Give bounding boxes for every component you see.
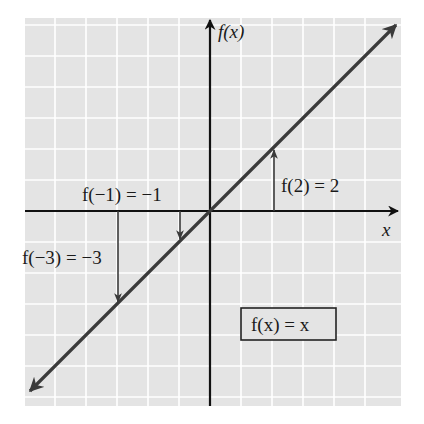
label-fm3: f(−3) = −3: [22, 247, 102, 269]
y-axis-label: f(x): [218, 21, 244, 43]
function-graph: f(x) x f(2) = 2 f(−1) = −1 f(−3) = −3 f(…: [0, 0, 424, 424]
label-f2: f(2) = 2: [281, 175, 339, 197]
label-fm1: f(−1) = −1: [82, 184, 162, 206]
legend-box: f(x) = x: [241, 308, 336, 340]
x-axis-label: x: [381, 219, 391, 240]
legend-text: f(x) = x: [251, 314, 310, 336]
